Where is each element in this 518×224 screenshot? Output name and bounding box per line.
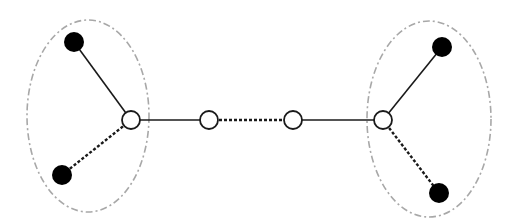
groups-layer bbox=[27, 20, 491, 217]
node-middle-left bbox=[200, 111, 218, 129]
node-middle-right bbox=[284, 111, 302, 129]
node-left-leaf-bottom bbox=[52, 165, 72, 185]
node-right-leaf-top bbox=[432, 37, 452, 57]
nodes-layer bbox=[52, 32, 452, 203]
node-right-hub bbox=[374, 111, 392, 129]
node-left-leaf-top bbox=[64, 32, 84, 52]
node-right-leaf-bottom bbox=[429, 183, 449, 203]
edge-left-leaf-top-left-hub bbox=[74, 42, 131, 120]
node-left-hub bbox=[122, 111, 140, 129]
edge-right-hub-right-leaf-top bbox=[383, 47, 442, 120]
edge-left-leaf-bottom-left-hub bbox=[62, 120, 131, 175]
edge-right-hub-right-leaf-bottom bbox=[383, 120, 439, 193]
graph-diagram bbox=[0, 0, 518, 224]
